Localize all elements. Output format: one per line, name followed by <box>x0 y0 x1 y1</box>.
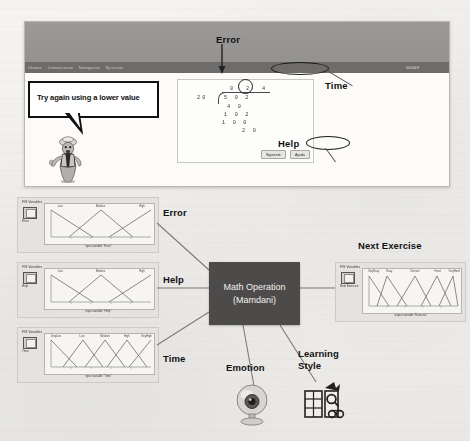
division-step-3: 1 0 0 <box>222 120 249 126</box>
long-division-worksheet: 0 2 4 20 5 0 2 4 0 1 0 2 1 0 0 2 0 <box>196 85 306 143</box>
menu-item-usuario[interactable]: Usuario <box>25 66 45 70</box>
annotation-circle-time <box>271 62 329 75</box>
division-step-4: 2 0 <box>242 128 258 134</box>
annotation-circle-help <box>306 136 350 150</box>
engine-title-line-1: Math Operation <box>223 281 285 294</box>
annotation-label-time: Time <box>325 80 348 91</box>
learning-style-line-2: Style <box>298 360 339 372</box>
diagram-label-emotion: Emotion <box>226 362 265 373</box>
fuzzy-inference-engine-block: Math Operation (Mamdani) <box>209 262 300 325</box>
diagram-label-next-exercise: Next Exercise <box>358 240 422 251</box>
connector-error-to-engine <box>157 223 209 270</box>
session-timer-display: 00:00:9 <box>406 66 449 70</box>
learning-materials-icon <box>303 378 347 422</box>
division-dividend: 5 0 2 <box>224 95 251 101</box>
division-step-1: 4 0 <box>227 104 243 110</box>
feedback-message-text: Try again using a lower value <box>37 93 140 102</box>
connector-time-to-engine <box>157 312 209 345</box>
menu-item-navegacion[interactable]: Navegacion <box>76 66 103 70</box>
help-button[interactable]: Ayuda <box>290 150 310 159</box>
menu-item-comunicacion[interactable]: Comunicacion <box>45 66 76 70</box>
annotation-circle-error <box>238 79 253 94</box>
annotation-label-help: Help <box>278 138 299 149</box>
menu-item-ejercicios[interactable]: Ejercicios <box>103 66 126 70</box>
diagram-label-error: Error <box>163 207 187 218</box>
connector-emotion-to-engine <box>243 325 254 386</box>
division-step-2: 1 0 2 <box>224 112 251 118</box>
feedback-speech-bubble: Try again using a lower value <box>28 81 159 118</box>
engine-title-line-2: (Mamdani) <box>233 294 276 307</box>
application-menu-bar: Usuario Comunicacion Navegacion Ejercici… <box>25 62 449 73</box>
webcam-icon <box>234 384 270 426</box>
genie-tutor-character <box>45 133 91 183</box>
annotation-arrow-error <box>210 44 234 78</box>
diagram-label-time: Time <box>163 353 185 364</box>
next-exercise-button[interactable]: Siguiente <box>261 150 286 159</box>
application-content-area: Try again using a lower value <box>25 73 449 186</box>
learning-style-line-1: Learning <box>298 348 339 360</box>
diagram-label-help: Help <box>163 274 184 285</box>
tutor-application-screenshot: Usuario Comunicacion Navegacion Ejercici… <box>24 21 450 187</box>
diagram-label-learning-style: Learning Style <box>298 348 339 372</box>
division-divisor: 20 <box>197 95 208 101</box>
exercise-card-buttons: Siguiente Ayuda <box>261 150 310 159</box>
